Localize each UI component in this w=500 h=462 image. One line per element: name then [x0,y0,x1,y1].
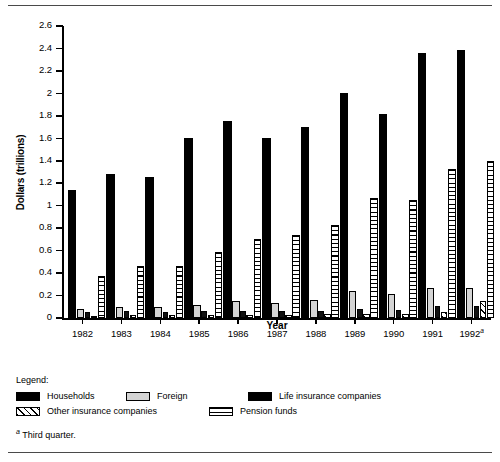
bar-group [141,26,180,318]
bottom-rule [8,452,492,453]
legend-swatch-foreign [126,392,150,401]
legend-label-foreign: Foreign [157,391,188,401]
bar-life-1986[interactable] [240,311,246,318]
y-axis-title: Dollars (trillions) [14,26,28,318]
y-tick-label: 1 [47,198,52,211]
bar-foreign-1990[interactable] [388,294,396,318]
y-tick-label: 0.8 [39,220,52,233]
legend-item-foreign[interactable]: Foreign [126,391,188,401]
bar-life-1985[interactable] [201,311,207,318]
bar-households-1984[interactable] [145,177,154,319]
bar-life-1992[interactable] [474,306,480,318]
bar-other-1987[interactable] [285,315,292,318]
bar-life-1983[interactable] [124,311,130,318]
bar-other-1992[interactable] [480,301,487,318]
legend-row: HouseholdsForeignLife insurance companie… [16,390,486,402]
y-tick: 1.8 [56,115,63,117]
bar-foreign-1987[interactable] [271,303,279,318]
bar-households-1988[interactable] [301,127,310,318]
y-tick-label: 0.4 [39,265,52,278]
y-tick: 0 [56,317,63,319]
y-tick: 2.2 [56,70,63,72]
bar-other-1988[interactable] [324,314,331,318]
bar-pension-1992[interactable] [487,161,495,318]
bar-other-1982[interactable] [91,316,98,318]
bar-foreign-1986[interactable] [232,301,240,318]
bar-foreign-1992[interactable] [466,288,474,318]
y-tick: 1.2 [56,182,63,184]
bar-group [296,26,335,318]
y-tick: 0.8 [56,227,63,229]
bar-life-1990[interactable] [396,310,402,318]
bar-foreign-1985[interactable] [193,305,201,318]
y-tick-label: 2.4 [39,41,52,54]
legend-swatch-other [16,407,40,416]
bar-other-1986[interactable] [246,315,253,318]
y-tick-label: 1.6 [39,131,52,144]
y-tick: 1.4 [56,160,63,162]
bar-households-1990[interactable] [379,114,388,318]
bar-households-1992[interactable] [457,50,466,318]
top-rule [8,5,492,6]
bar-other-1984[interactable] [169,315,176,318]
bar-group [258,26,297,318]
legend-title: Legend: [16,375,486,385]
bar-foreign-1983[interactable] [116,307,124,318]
bar-other-1990[interactable] [402,314,409,318]
y-tick-label: 1.2 [39,175,52,188]
bar-foreign-1991[interactable] [427,288,435,318]
y-tick: 0.6 [56,250,63,252]
bar-households-1987[interactable] [262,138,271,318]
footnote-text: Third quarter. [22,430,76,440]
bar-life-1987[interactable] [279,311,285,318]
bar-households-1982[interactable] [68,190,77,318]
bar-life-1982[interactable] [85,312,91,318]
plot-area: 00.20.40.60.811.21.41.61.822.22.42.6 198… [63,26,491,318]
bar-foreign-1984[interactable] [154,307,162,318]
y-tick: 2.4 [56,48,63,50]
bar-other-1991[interactable] [441,312,448,318]
legend-swatch-life [248,392,272,401]
legend-item-life[interactable]: Life insurance companies [248,391,381,401]
bar-foreign-1988[interactable] [310,300,318,318]
legend-item-pension[interactable]: Pension funds [209,406,297,416]
y-tick-label: 2.2 [39,63,52,76]
bar-life-1988[interactable] [318,311,324,318]
legend-label-other: Other insurance companies [47,406,157,416]
legend-item-other[interactable]: Other insurance companies [16,406,157,416]
y-tick: 2.6 [56,25,63,27]
bar-other-1985[interactable] [208,315,215,318]
bar-households-1989[interactable] [340,93,349,318]
bar-households-1986[interactable] [223,121,232,318]
footnote-marker: a [16,428,20,435]
footnote: a Third quarter. [16,430,76,440]
bar-foreign-1989[interactable] [349,291,357,318]
bar-life-1984[interactable] [163,312,169,318]
bar-group [63,26,102,318]
legend-rows: HouseholdsForeignLife insurance companie… [16,390,486,417]
bar-other-1983[interactable] [130,315,137,318]
bar-group [102,26,141,318]
bar-households-1983[interactable] [106,174,115,318]
bar-foreign-1982[interactable] [77,309,85,318]
y-tick-label: 0.2 [39,288,52,301]
y-axis-title-text: Dollars (trillions) [16,134,27,210]
y-tick-label: 0.6 [39,243,52,256]
y-tick-label: 2 [47,86,52,99]
y-tick-label: 1.8 [39,108,52,121]
y-tick-label: 1.4 [39,153,52,166]
y-tick-label: 2.6 [39,18,52,31]
bar-households-1991[interactable] [418,53,427,318]
y-tick-label: 0 [47,310,52,323]
legend-item-households[interactable]: Households [16,391,95,401]
bar-other-1989[interactable] [363,314,370,318]
bar-group [180,26,219,318]
legend-swatch-households [16,392,40,401]
bar-group [335,26,374,318]
figure-container: Dollars (trillions) 00.20.40.60.811.21.4… [0,0,500,462]
y-tick: 1 [56,205,63,207]
bar-life-1989[interactable] [357,309,363,318]
bar-life-1991[interactable] [435,306,441,318]
bar-group [452,26,491,318]
bar-households-1985[interactable] [184,138,193,318]
